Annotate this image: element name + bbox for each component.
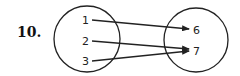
domain-element-1: 1 xyxy=(82,14,89,27)
arrow-2-to-7 xyxy=(92,41,189,49)
range-element-6: 6 xyxy=(193,24,200,37)
arrow-3-to-7 xyxy=(92,51,189,61)
problem-number: 10. xyxy=(17,24,41,40)
range-element-7: 7 xyxy=(193,45,200,58)
arrow-1-to-6 xyxy=(92,20,189,29)
domain-element-3: 3 xyxy=(82,55,89,68)
domain-element-2: 2 xyxy=(82,35,89,48)
mapping-diagram: 10. 1 2 3 6 7 xyxy=(0,0,240,76)
range-circle xyxy=(164,8,228,72)
